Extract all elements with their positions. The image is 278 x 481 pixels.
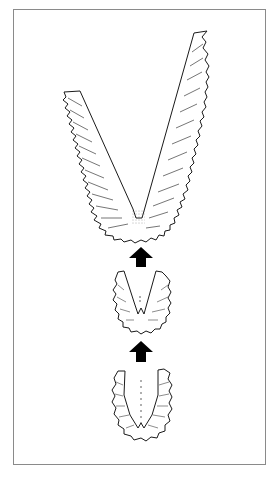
stage-2-middle-u: [113, 271, 171, 334]
arrow-up-icon: [129, 341, 153, 362]
growth-diagram: [0, 0, 278, 481]
stage-1-small-u: [112, 369, 172, 441]
arrow-up-icon: [129, 247, 153, 267]
stage-3-large-v: [63, 31, 209, 243]
